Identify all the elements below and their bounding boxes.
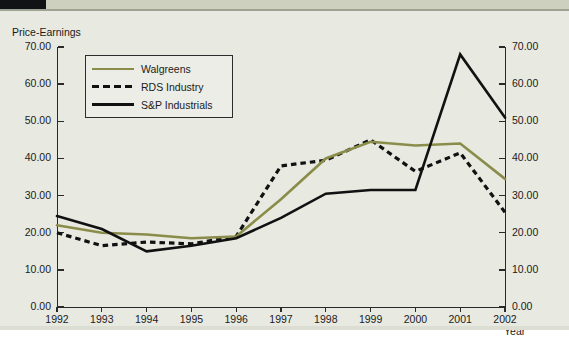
legend-item-sp-industrials: S&P Industrials	[92, 96, 213, 113]
chart-legend: Walgreens RDS Industry S&P Industrials	[85, 55, 233, 118]
page-header-block	[0, 0, 46, 9]
legend-swatch-rds-industry-dashed-line-icon	[92, 81, 134, 93]
legend-label-rds-industry: RDS Industry	[141, 81, 203, 93]
series-line-walgreens	[57, 142, 505, 239]
legend-label-sp-industrials: S&P Industrials	[141, 99, 213, 111]
legend-swatch-walgreens-line-icon	[92, 63, 134, 75]
series-line-rds-industry	[57, 140, 505, 246]
legend-label-walgreens: Walgreens	[141, 63, 191, 75]
figure-bottom-edge	[0, 326, 569, 330]
legend-item-walgreens: Walgreens	[92, 60, 191, 77]
chart-figure: Price-Earnings 0.0010.0020.0030.0040.005…	[0, 11, 569, 326]
legend-swatch-sp-industrials-line-icon	[92, 99, 134, 111]
legend-item-rds-industry: RDS Industry	[92, 78, 203, 95]
